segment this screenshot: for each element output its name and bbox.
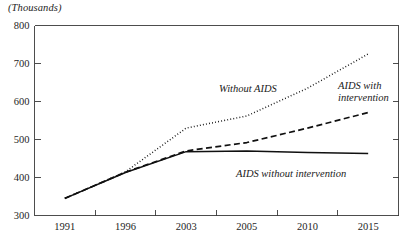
x-axis-ticks: 199119962003200520102015 [54,210,378,232]
x-tick-label: 1996 [115,221,136,232]
y-tick-label: 700 [14,58,30,69]
series-line-dashed [65,113,368,199]
x-tick-label: 2010 [297,221,318,232]
y-axis-ticks: 300400500600700800 [14,20,399,221]
annotation-aids-without-intervention-label: AIDS without intervention [236,168,346,179]
x-tick-label: 2015 [358,221,379,232]
x-tick-label: 2005 [236,221,257,232]
y-tick-label: 300 [14,210,30,221]
y-tick-label: 400 [14,172,30,183]
line-chart: 300400500600700800 199119962003200520102… [0,0,413,247]
chart-page: (Thousands) 300400500600700800 199119962… [0,0,413,247]
y-tick-label: 800 [14,20,30,31]
annotation-without-aids: Without AIDS [219,78,277,96]
annotation-without-aids-label: Without AIDS [219,83,277,94]
annotation-aids-with-intervention-line1: AIDS with [338,80,389,92]
y-tick-label: 600 [14,96,30,107]
axes-group [35,26,399,216]
y-tick-label: 500 [14,134,30,145]
annotation-aids-without-intervention: AIDS without intervention [236,163,346,181]
x-tick-label: 1991 [54,221,75,232]
x-tick-label: 2003 [176,221,197,232]
annotation-aids-with-intervention: AIDS with intervention [338,80,389,104]
annotation-aids-with-intervention-line2: intervention [338,92,389,104]
